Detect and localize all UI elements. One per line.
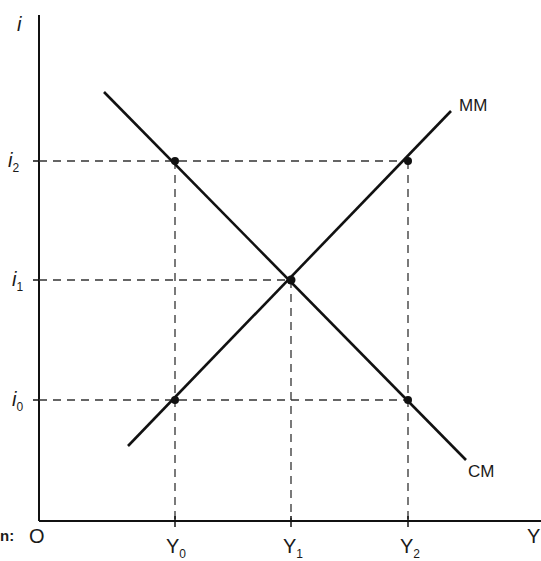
- tick-label-i1-sub: 1: [16, 280, 23, 294]
- tick-label-y1: Y1: [283, 536, 303, 556]
- mm-curve-label: MM: [459, 97, 487, 114]
- tick-label-y2-base: Y: [400, 535, 413, 557]
- tick-label-y2-sub: 2: [413, 547, 420, 561]
- cm-curve-label: CM: [468, 463, 494, 480]
- origin-label: O: [29, 526, 45, 546]
- point-equilibrium: [287, 276, 296, 285]
- point-y2-i0: [404, 396, 412, 404]
- corner-text-fragment: n:: [0, 528, 14, 543]
- tick-label-i1: i1: [12, 269, 23, 289]
- point-y2-i2: [404, 157, 412, 165]
- cm-curve: [104, 92, 466, 460]
- tick-label-i2: i2: [8, 150, 19, 170]
- y-axis-label: i: [17, 14, 21, 34]
- tick-label-y0: Y0: [166, 536, 186, 556]
- tick-label-i0-sub: 0: [16, 400, 23, 414]
- tick-label-y1-base: Y: [283, 535, 296, 557]
- tick-label-y2: Y2: [400, 536, 420, 556]
- tick-label-i2-sub: 2: [12, 161, 19, 175]
- tick-label-y1-sub: 1: [296, 547, 303, 561]
- point-y0-i0: [171, 396, 179, 404]
- point-y0-i2: [171, 157, 179, 165]
- x-axis-label: Y: [527, 526, 540, 546]
- tick-label-i0: i0: [12, 389, 23, 409]
- tick-label-y0-base: Y: [166, 535, 179, 557]
- tick-label-y0-sub: 0: [179, 547, 186, 561]
